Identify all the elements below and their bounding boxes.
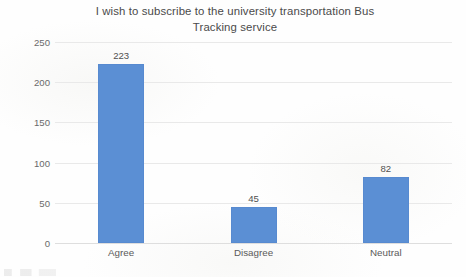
gridline bbox=[55, 243, 452, 244]
x-axis-category-label: Neutral bbox=[370, 247, 402, 258]
bar-value-label: 82 bbox=[380, 163, 391, 174]
x-axis: AgreeDisagreeNeutral bbox=[55, 247, 452, 267]
bar-chart-figure: I wish to subscribe to the university tr… bbox=[0, 0, 466, 277]
y-axis-tick-label: 50 bbox=[6, 197, 50, 208]
y-axis: 050100150200250 bbox=[0, 42, 50, 243]
bar bbox=[98, 64, 144, 243]
x-axis-category-label: Agree bbox=[108, 247, 134, 258]
y-axis-tick-label: 250 bbox=[6, 37, 50, 48]
plot-area: 2234582 bbox=[55, 42, 452, 243]
x-axis-category-label: Disagree bbox=[234, 247, 273, 258]
y-axis-tick-label: 0 bbox=[6, 238, 50, 249]
y-axis-tick-label: 100 bbox=[6, 157, 50, 168]
scan-artifact bbox=[4, 269, 56, 276]
gridline bbox=[55, 42, 452, 43]
bar-value-label: 45 bbox=[248, 193, 259, 204]
y-axis-tick-label: 200 bbox=[6, 77, 50, 88]
bar bbox=[231, 207, 277, 243]
bar-value-label: 223 bbox=[113, 50, 129, 61]
y-axis-tick-label: 150 bbox=[6, 117, 50, 128]
bar bbox=[363, 177, 409, 243]
chart-title: I wish to subscribe to the university tr… bbox=[60, 4, 410, 35]
